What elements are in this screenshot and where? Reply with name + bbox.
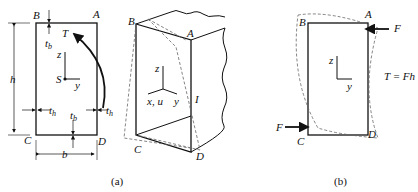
caption-b: (b) <box>334 175 347 188</box>
diagram-canvas: B A C D T S z y h b tb tb th th B A C D … <box>0 0 418 192</box>
b-label-corner-c: C <box>297 135 305 147</box>
b-label-corner-a: A <box>364 8 372 20</box>
label-height: h <box>10 73 16 85</box>
b-label-axis-y: y <box>346 80 352 92</box>
label-shear-center: S <box>56 73 62 85</box>
figure-b: B A C D F F z y T = Fh <box>275 8 416 147</box>
iso-label-corner-d: D <box>195 150 204 162</box>
b-label-corner-b: B <box>299 16 306 28</box>
section-figure-a: B A C D T S z y h b tb tb th th <box>8 8 113 160</box>
shear-center-dot <box>63 77 66 80</box>
label-tb-top: tb <box>45 37 52 51</box>
label-corner-c: C <box>24 134 32 146</box>
iso-label-corner-b: B <box>128 15 135 27</box>
label-force-top: F <box>393 22 401 34</box>
label-th-left: th <box>49 104 56 118</box>
b-label-axis-z: z <box>328 54 334 66</box>
b-label-corner-d: D <box>367 128 376 140</box>
iso-label-corner-c: C <box>134 143 142 155</box>
iso-label-axis-z: z <box>154 62 160 74</box>
label-th-right: th <box>106 104 113 118</box>
caption-a: (a) <box>111 175 124 188</box>
isometric-figure-a: B A C D z x, u y I <box>124 11 227 163</box>
iso-label-point-i: I <box>194 93 200 105</box>
label-corner-a: A <box>92 8 100 20</box>
iso-label-axis-y: y <box>173 95 179 107</box>
label-axis-z: z <box>56 48 62 60</box>
label-axis-y: y <box>74 79 80 91</box>
label-width: b <box>62 148 68 160</box>
iso-label-corner-a: A <box>186 27 194 39</box>
label-force-bottom: F <box>275 121 283 133</box>
iso-label-axis-x: x, u <box>146 95 163 107</box>
label-corner-d: D <box>97 135 106 147</box>
label-torque: T <box>62 27 69 39</box>
label-corner-b: B <box>33 9 40 21</box>
label-equation: T = Fh <box>384 70 416 82</box>
torque-arrow <box>74 34 105 108</box>
label-tb-bottom: tb <box>70 109 77 123</box>
